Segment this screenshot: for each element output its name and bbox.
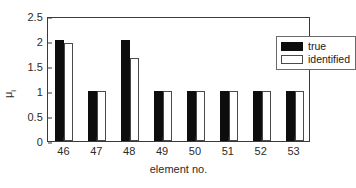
bar-identified-53 — [295, 91, 304, 141]
x-tick-mark — [97, 137, 98, 141]
bar-true-53 — [286, 91, 295, 141]
x-tick-label: 47 — [90, 145, 102, 157]
legend-item-true: true — [281, 40, 351, 53]
bar-identified-47 — [97, 91, 106, 141]
x-tick-label: 46 — [57, 145, 69, 157]
y-tick-label: 2 — [37, 36, 43, 48]
bar-true-51 — [220, 91, 229, 141]
legend-item-identified: identified — [281, 53, 351, 66]
bar-identified-48 — [130, 58, 139, 142]
bar-identified-49 — [163, 91, 172, 141]
bar-true-48 — [121, 40, 130, 142]
chart-legend: true identified — [276, 36, 356, 70]
x-tick-mark — [163, 137, 164, 141]
bar-identified-52 — [262, 91, 271, 141]
y-tick-mark — [48, 43, 52, 44]
x-tick-mark — [294, 137, 295, 141]
legend-swatch-true — [281, 42, 303, 51]
x-tick-label: 48 — [123, 145, 135, 157]
plot-area: true identified — [48, 18, 309, 141]
y-tick-mark — [48, 68, 52, 69]
bar-identified-50 — [196, 91, 205, 141]
legend-label-identified: identified — [308, 54, 350, 65]
x-tick-label: 52 — [255, 145, 267, 157]
legend-label-true: true — [308, 41, 326, 52]
x-tick-mark — [64, 137, 65, 141]
x-tick-mark — [228, 137, 229, 141]
y-tick-label: 2.5 — [27, 11, 43, 23]
bar-identified-51 — [229, 91, 238, 141]
x-tick-label: 51 — [222, 145, 234, 157]
x-tick-label: 50 — [189, 145, 201, 157]
bar-true-46 — [55, 40, 64, 142]
x-tick-mark — [195, 137, 196, 141]
x-tick-mark — [130, 137, 131, 141]
y-axis-label-subscript: i — [9, 90, 18, 92]
y-axis-label-symbol: μ — [2, 92, 14, 98]
y-tick-label: 1.5 — [27, 61, 43, 73]
bar-identified-46 — [64, 43, 73, 142]
x-tick-label: 53 — [287, 145, 299, 157]
y-tick-label: 0 — [37, 136, 43, 148]
y-tick-label: 1 — [37, 86, 43, 98]
bar-true-49 — [154, 91, 163, 141]
y-tick-mark — [48, 143, 52, 144]
bar-true-52 — [253, 91, 262, 141]
x-axis-label: element no. — [47, 163, 310, 175]
x-tick-label: 49 — [156, 145, 168, 157]
plot-frame: true identified — [47, 17, 310, 142]
legend-swatch-identified — [281, 55, 303, 64]
y-tick-mark — [48, 118, 52, 119]
y-axis-label: μi — [2, 90, 17, 98]
y-tick-mark — [48, 18, 52, 19]
bar-true-47 — [88, 91, 97, 141]
bar-true-50 — [187, 91, 196, 141]
y-tick-mark — [48, 93, 52, 94]
x-tick-mark — [261, 137, 262, 141]
y-tick-label: 0.5 — [27, 111, 43, 123]
